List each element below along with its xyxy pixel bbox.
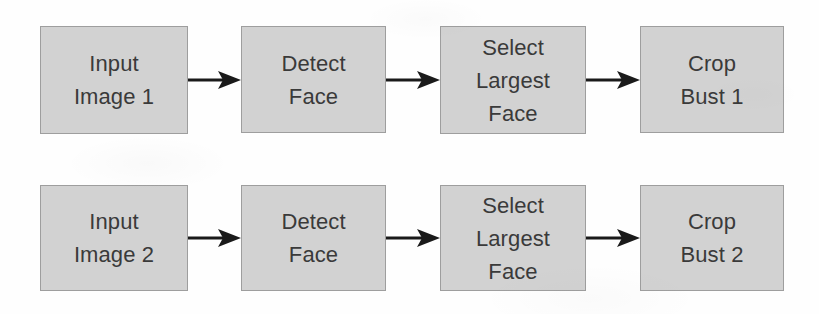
node-label-line: Crop <box>688 47 736 80</box>
arrow-detect-face-1-to-select-largest-face-1 <box>386 70 440 90</box>
node-label-line: Face <box>488 255 537 288</box>
node-select-largest-face-1[interactable]: Select Largest Face <box>440 26 586 134</box>
node-crop-bust-2[interactable]: Crop Bust 2 <box>640 185 784 291</box>
node-label-line: Largest <box>476 222 550 255</box>
node-input-image-1[interactable]: Input Image 1 <box>40 26 188 134</box>
node-label-line: Face <box>289 238 338 271</box>
node-label-line: Select <box>482 189 544 222</box>
node-label-line: Bust 1 <box>681 80 744 113</box>
arrow-select-largest-face-2-to-crop-bust-2 <box>586 228 640 248</box>
node-label-line: Detect <box>281 47 345 80</box>
arrow-input-image-1-to-detect-face-1 <box>188 70 241 90</box>
arrow-detect-face-2-to-select-largest-face-2 <box>386 228 440 248</box>
node-label-line: Crop <box>688 205 736 238</box>
node-detect-face-2[interactable]: Detect Face <box>241 185 386 291</box>
node-label-line: Input <box>89 47 138 80</box>
node-label-line: Largest <box>476 64 550 97</box>
node-label-line: Input <box>89 205 138 238</box>
node-label-line: Image 2 <box>74 238 154 271</box>
node-label-line: Detect <box>281 205 345 238</box>
node-label-line: Select <box>482 31 544 64</box>
node-label-line: Face <box>289 80 338 113</box>
node-detect-face-1[interactable]: Detect Face <box>241 26 386 133</box>
node-crop-bust-1[interactable]: Crop Bust 1 <box>640 26 784 133</box>
node-input-image-2[interactable]: Input Image 2 <box>40 185 188 291</box>
node-label-line: Bust 2 <box>681 238 744 271</box>
arrow-select-largest-face-1-to-crop-bust-1 <box>586 70 640 90</box>
flowchart-canvas: Input Image 1 Detect Face Select Largest… <box>0 0 819 314</box>
node-select-largest-face-2[interactable]: Select Largest Face <box>440 185 586 291</box>
node-label-line: Face <box>488 97 537 130</box>
node-label-line: Image 1 <box>74 80 154 113</box>
arrow-input-image-2-to-detect-face-2 <box>188 228 241 248</box>
